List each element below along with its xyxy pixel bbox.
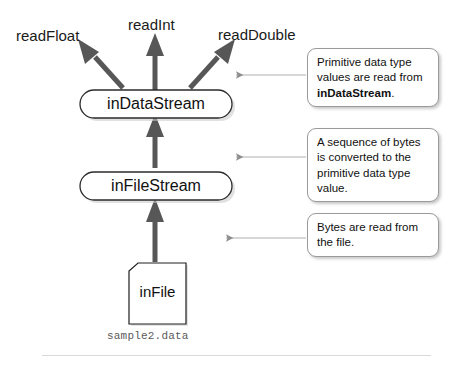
callout-1-text-after: . [391, 87, 394, 99]
flow-arrows [78, 33, 235, 262]
read-double-label: readDouble [218, 27, 296, 42]
read-int-label: readInt [128, 17, 175, 32]
arrow-in-data-stream-to-read-float [78, 39, 123, 88]
in-file-label: inFile [129, 284, 186, 299]
callout-1-emphasis: inDataStream [317, 87, 391, 99]
arrow-in-file-to-in-file-stream [146, 198, 164, 262]
callout-2-text: A sequence of bytes is converted to the … [317, 136, 421, 194]
callout-bytes-from-file: Bytes are read from the file. [307, 213, 439, 257]
arrow-in-data-stream-to-read-double [190, 39, 235, 88]
callout-leaders [226, 75, 306, 238]
bottom-divider [42, 355, 431, 356]
callout-primitive-values: Primitive data type values are read from… [307, 48, 439, 107]
arrow-in-data-stream-to-read-int [146, 33, 164, 90]
callout-3-text: Bytes are read from the file. [317, 221, 418, 248]
callout-1-text-before: Primitive data type values are read from [317, 56, 422, 83]
arrow-in-file-stream-to-in-data-stream [146, 114, 164, 168]
callout-byte-conversion: A sequence of bytes is converted to the … [307, 128, 439, 202]
read-float-label: readFloat [16, 28, 79, 43]
stream-diagram: readFloat readInt readDouble inDataStrea… [0, 0, 457, 366]
in-file-stream-label: inFileStream [80, 178, 232, 194]
in-data-stream-label: inDataStream [80, 96, 232, 112]
in-file-filename-label: sample2.data [107, 331, 189, 342]
